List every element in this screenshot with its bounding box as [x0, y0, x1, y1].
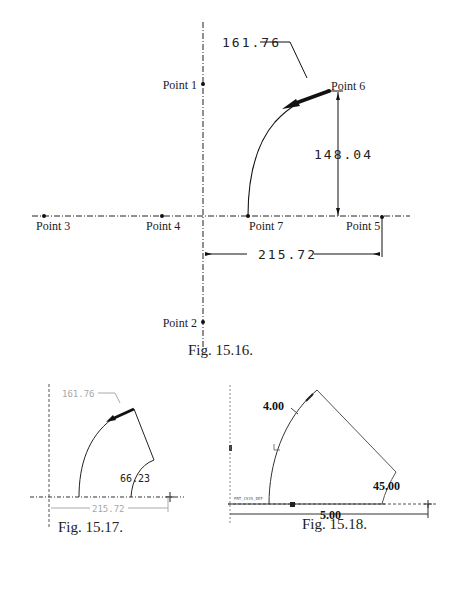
fig17-arc — [79, 419, 112, 497]
horizontal-dimension-value: 215.72 — [258, 247, 317, 262]
point-3-label: Point 3 — [36, 219, 70, 233]
figure-15-17-caption: Fig. 15.17. — [58, 519, 123, 536]
point-4-marker — [160, 214, 164, 218]
point-1-label: Point 1 — [163, 78, 197, 92]
fig18-csys-label: PRT_CSYS_DEF — [234, 496, 263, 501]
fig17-horizontal-value: 215.72 — [92, 504, 125, 514]
figure-15-18-caption: Fig. 15.18. — [302, 516, 367, 533]
fig17-slant-line — [134, 409, 154, 460]
fig18-constraint-marker — [229, 445, 232, 451]
point-2-marker — [201, 320, 205, 324]
arc-arrow — [296, 91, 329, 103]
point-6-label: Point 6 — [331, 79, 365, 93]
fig18-slant-line — [317, 390, 396, 472]
point-1-marker — [201, 82, 205, 86]
figure-15-16-caption: Fig. 15.16. — [188, 342, 253, 359]
fig18-radius-value: 4.00 — [263, 399, 284, 413]
vertical-dimension-value: 148.04 — [314, 147, 373, 162]
radius-dimension-value: 161.76 — [222, 35, 281, 50]
point-7-label: Point 7 — [249, 219, 283, 233]
point-4-label: Point 4 — [146, 219, 180, 233]
fig17-radius-value: 161.76 — [62, 389, 95, 399]
fig17-angle-value: 66.23 — [120, 473, 150, 484]
point-5-label: Point 5 — [346, 219, 380, 233]
point-3-marker — [42, 214, 46, 218]
fig18-midpoint-marker — [290, 502, 295, 507]
fig18-angle-value: 45.00 — [373, 479, 400, 493]
point-2-label: Point 2 — [163, 316, 197, 330]
